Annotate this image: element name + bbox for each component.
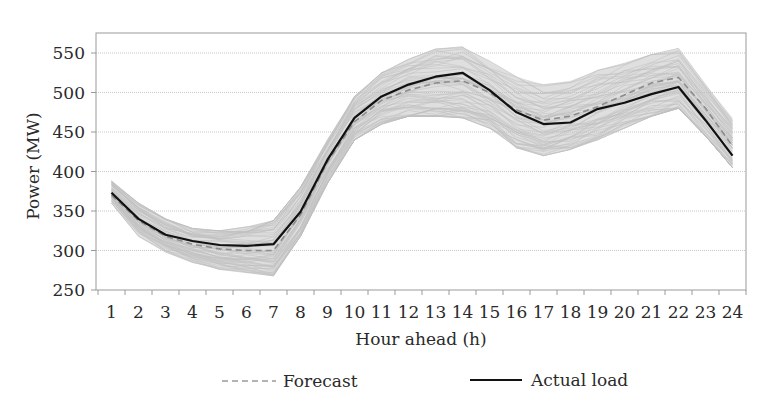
x-tick-label: 11 [371, 302, 393, 322]
y-tick-label: 250 [53, 280, 85, 300]
x-tick-label: 21 [641, 302, 663, 322]
y-axis-title: Power (MW) [23, 112, 43, 219]
x-tick-label: 22 [668, 302, 690, 322]
y-tick-label: 550 [53, 43, 85, 63]
x-tick-label: 10 [344, 302, 366, 322]
x-tick-label: 4 [187, 302, 198, 322]
x-tick-label: 6 [241, 302, 252, 322]
x-tick-label: 5 [214, 302, 225, 322]
x-axis-title: Hour ahead (h) [355, 329, 486, 349]
legend: Forecast Actual load [222, 370, 628, 391]
y-axis: 250300350400450500550 [53, 43, 96, 300]
x-tick-label: 15 [479, 302, 501, 322]
legend-actual-label: Actual load [530, 370, 628, 390]
x-tick-label: 7 [268, 302, 279, 322]
x-axis: 123456789101112131415161718192021222324 [98, 290, 746, 322]
x-tick-label: 24 [722, 302, 744, 322]
x-tick-label: 17 [533, 302, 555, 322]
y-tick-label: 300 [53, 241, 85, 261]
x-tick-label: 14 [452, 302, 474, 322]
x-tick-label: 2 [133, 302, 144, 322]
y-tick-label: 350 [53, 201, 85, 221]
x-tick-label: 12 [398, 302, 420, 322]
y-tick-label: 500 [53, 83, 85, 103]
x-tick-label: 18 [560, 302, 582, 322]
x-tick-label: 8 [295, 302, 306, 322]
x-tick-label: 13 [425, 302, 447, 322]
legend-forecast-label: Forecast [283, 371, 358, 391]
x-tick-label: 19 [587, 302, 609, 322]
x-tick-label: 16 [506, 302, 528, 322]
x-tick-label: 9 [322, 302, 333, 322]
y-tick-label: 450 [53, 122, 85, 142]
x-tick-label: 20 [614, 302, 636, 322]
load-forecast-chart: 250300350400450500550 123456789101112131… [0, 0, 765, 413]
y-tick-label: 400 [53, 162, 85, 182]
x-tick-label: 3 [160, 302, 171, 322]
x-tick-label: 1 [106, 302, 117, 322]
x-tick-label: 23 [695, 302, 717, 322]
